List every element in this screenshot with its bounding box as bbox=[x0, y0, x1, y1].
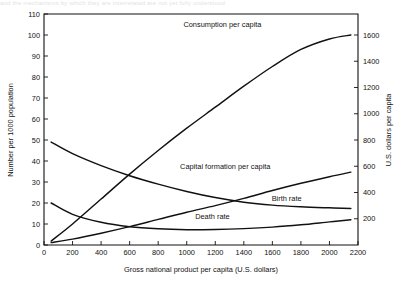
figure-container: and the mechanisms by which they are int… bbox=[0, 0, 401, 284]
plot-frame bbox=[44, 14, 358, 245]
right-tick-label: 400 bbox=[363, 188, 375, 197]
y2-axis-title: U.S. dollars per capita bbox=[384, 93, 393, 167]
bottom-axis-ticks bbox=[44, 241, 358, 245]
bottom-tick-label: 2000 bbox=[321, 248, 337, 257]
bottom-tick-label: 1000 bbox=[179, 248, 195, 257]
bottom-tick-label: 1600 bbox=[264, 248, 280, 257]
y-axis-title: Number per 1000 population bbox=[6, 83, 15, 177]
left-tick-label: 30 bbox=[32, 178, 40, 187]
left-tick-label: 40 bbox=[32, 157, 40, 166]
curve-label-death-rate: Death rate bbox=[195, 212, 230, 221]
bottom-tick-label: 200 bbox=[66, 248, 78, 257]
right-tick-label: 200 bbox=[363, 214, 375, 223]
curve-label-capital-formation-per-capita: Capital formation per capita bbox=[180, 162, 271, 171]
left-axis-ticks bbox=[44, 14, 48, 245]
bottom-tick-label: 400 bbox=[95, 248, 107, 257]
left-tick-label: 10 bbox=[32, 220, 40, 229]
line-chart: 0102030405060708090100110 20040060080010… bbox=[0, 0, 401, 284]
right-tick-label: 1600 bbox=[363, 31, 379, 40]
bottom-tick-label: 600 bbox=[123, 248, 135, 257]
right-axis-tick-labels: 2004006008001000120014001600 bbox=[363, 31, 379, 224]
bottom-tick-label: 800 bbox=[152, 248, 164, 257]
curve-consumption-per-capita bbox=[51, 35, 351, 241]
left-tick-label: 0 bbox=[36, 241, 40, 250]
left-tick-label: 70 bbox=[32, 94, 40, 103]
left-tick-label: 110 bbox=[28, 10, 40, 19]
curve-birth-rate bbox=[51, 142, 351, 208]
right-tick-label: 1200 bbox=[363, 83, 379, 92]
right-tick-label: 800 bbox=[363, 136, 375, 145]
right-axis-ticks bbox=[354, 35, 358, 219]
right-tick-label: 600 bbox=[363, 162, 375, 171]
bottom-tick-label: 1800 bbox=[293, 248, 309, 257]
left-tick-label: 60 bbox=[32, 115, 40, 124]
page-text-fragment: and the mechanisms by which they are int… bbox=[0, 0, 401, 7]
curve-label-birth-rate: Birth rate bbox=[272, 194, 302, 203]
bottom-tick-label: 0 bbox=[42, 248, 46, 257]
left-tick-label: 100 bbox=[28, 31, 40, 40]
x-axis-title: Gross national product per capita (U.S. … bbox=[124, 265, 278, 274]
bottom-tick-label: 1200 bbox=[207, 248, 223, 257]
left-tick-label: 90 bbox=[32, 52, 40, 61]
left-tick-label: 50 bbox=[32, 136, 40, 145]
right-tick-label: 1000 bbox=[363, 109, 379, 118]
bottom-axis-tick-labels: 0200400600800100012001400160018002000220… bbox=[42, 248, 366, 257]
left-tick-label: 80 bbox=[32, 73, 40, 82]
bottom-tick-label: 1400 bbox=[236, 248, 252, 257]
bottom-tick-label: 2200 bbox=[350, 248, 366, 257]
left-tick-label: 20 bbox=[32, 199, 40, 208]
right-tick-label: 1400 bbox=[363, 57, 379, 66]
left-axis-tick-labels: 0102030405060708090100110 bbox=[28, 10, 40, 250]
curve-label-consumption-per-capita: Consumption per capita bbox=[183, 20, 262, 29]
